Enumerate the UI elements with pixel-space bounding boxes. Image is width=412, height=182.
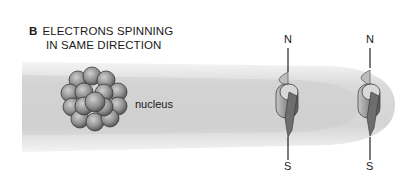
south-label-1: S xyxy=(284,160,291,172)
nucleus-label: nucleus xyxy=(135,98,173,110)
south-label-2: S xyxy=(366,160,373,172)
north-label-1: N xyxy=(284,33,292,45)
electron-spin-icon xyxy=(358,48,380,160)
diagram-canvas xyxy=(0,0,412,182)
north-label-2: N xyxy=(366,33,374,45)
